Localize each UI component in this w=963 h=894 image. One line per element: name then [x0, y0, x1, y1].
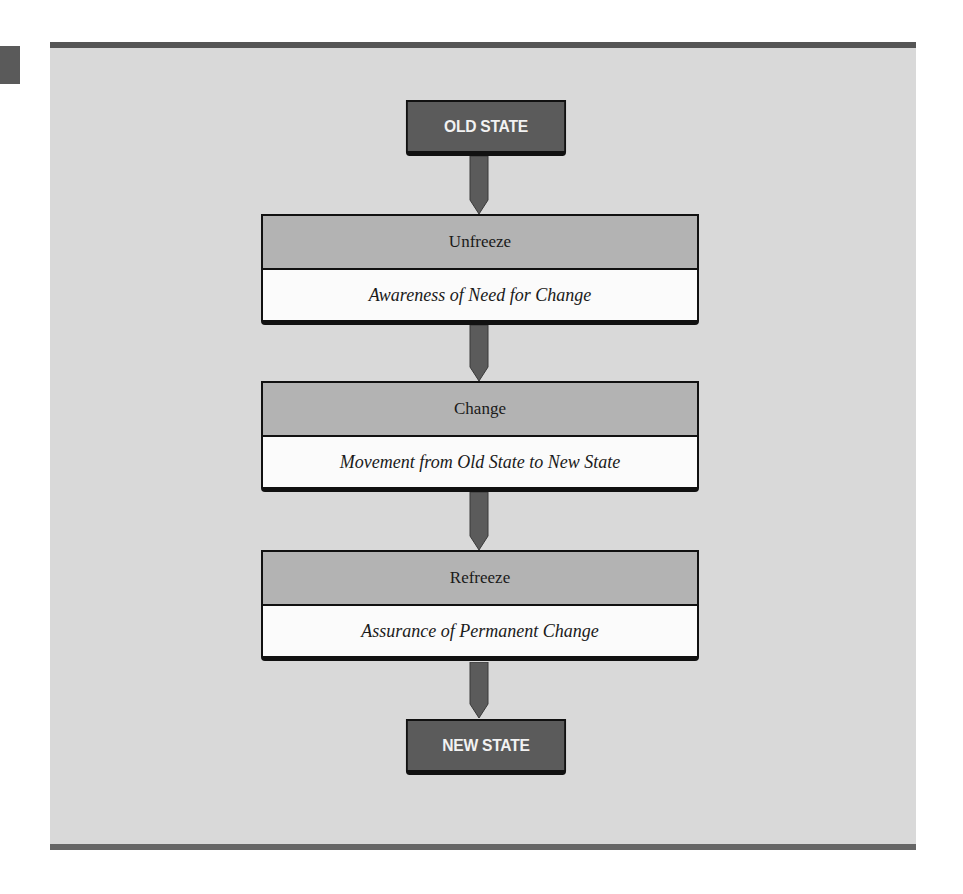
arrow-down-icon [469, 325, 489, 383]
bottom-rule [50, 844, 916, 850]
top-rule [50, 42, 916, 48]
new-state-box: NEW STATE [406, 719, 566, 775]
arrow-down-icon [469, 492, 489, 552]
old-state-box: OLD STATE [406, 100, 566, 156]
stage-name: Unfreeze [263, 216, 697, 270]
stage-description: Awareness of Need for Change [263, 270, 697, 320]
section-marker [0, 46, 20, 84]
old-state-label: OLD STATE [444, 117, 528, 137]
stage-name: Change [263, 383, 697, 437]
stage-unfreeze: Unfreeze Awareness of Need for Change [261, 214, 699, 325]
stage-change: Change Movement from Old State to New St… [261, 381, 699, 492]
stage-refreeze: Refreeze Assurance of Permanent Change [261, 550, 699, 661]
stage-description: Movement from Old State to New State [263, 437, 697, 487]
arrow-down-icon [469, 662, 489, 720]
arrow-down-icon [469, 156, 489, 216]
stage-name: Refreeze [263, 552, 697, 606]
stage-description: Assurance of Permanent Change [263, 606, 697, 656]
new-state-label: NEW STATE [442, 736, 529, 756]
